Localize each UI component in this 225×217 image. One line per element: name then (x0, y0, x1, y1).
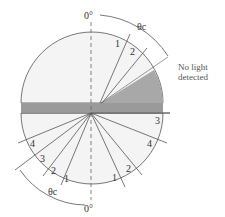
bottom-angle-label: 0° (84, 203, 93, 214)
annotation-line-2: detected (178, 72, 208, 82)
top-ray-label: 1 (115, 38, 120, 49)
top-ray-label: 2 (130, 46, 135, 57)
bottom-right-ray-label: 3 (155, 115, 160, 126)
bottom-left-ray-label: 1 (64, 173, 69, 184)
bottom-left-ray-label: 2 (51, 165, 56, 176)
bottom-semicircle (21, 113, 163, 184)
bottom-right-ray-label: 2 (126, 163, 131, 174)
interface-band (21, 103, 163, 112)
top-angle-label: 0° (84, 10, 93, 21)
bottom-right-ray-label: 4 (147, 138, 152, 149)
bottom-left-ray-label: 3 (40, 153, 45, 164)
bottom-right-ray-label: 1 (112, 172, 117, 183)
refraction-diagram: 0° 0° θc θc No light detected 1 2 4 3 2 … (0, 0, 225, 217)
bottom-left-ray-label: 4 (30, 138, 35, 149)
annotation-line-1: No light (178, 62, 208, 72)
theta-c-top-label: θc (137, 21, 147, 32)
theta-c-bottom-label: θc (48, 186, 58, 197)
